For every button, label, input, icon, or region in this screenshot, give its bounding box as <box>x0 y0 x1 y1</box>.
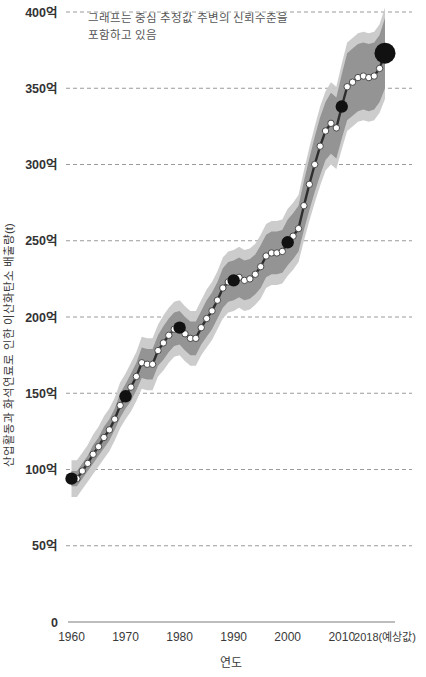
decade-marker <box>173 321 185 333</box>
y-tick-label: 350억 <box>25 82 58 96</box>
data-point <box>101 434 107 440</box>
x-tick-label: 1980 <box>166 630 193 644</box>
y-axis-tick-labels: 050억100억150억200억250억300억350억400억 <box>25 6 58 630</box>
data-point <box>203 315 209 321</box>
data-point <box>306 181 312 187</box>
x-tick-label: 1990 <box>220 630 247 644</box>
x-axis-tick-labels: 1960197019801990200020102018(예상값) <box>58 630 416 644</box>
data-point <box>90 451 96 457</box>
data-point <box>85 460 91 466</box>
y-tick-label: 50억 <box>32 539 58 553</box>
data-point <box>149 361 155 367</box>
data-point <box>160 340 166 346</box>
data-point <box>312 161 318 167</box>
decade-marker <box>375 43 396 64</box>
y-tick-label: 100억 <box>25 463 58 477</box>
y-axis-title: 산업활동과 화석연료로 인한 이산화탄소 배출량(t) <box>2 223 15 467</box>
decade-marker <box>282 236 294 248</box>
data-point <box>214 297 220 303</box>
data-point <box>220 285 226 291</box>
annotation-line-1: 그래프는 중심 추정값 주변의 신뢰수준을 <box>88 12 288 24</box>
data-point <box>193 335 199 341</box>
data-point <box>322 128 328 134</box>
decade-marker <box>336 100 348 112</box>
annotation-line-2: 포함하고 있음 <box>88 28 157 41</box>
data-point <box>209 308 215 314</box>
data-point <box>344 84 350 90</box>
data-point <box>371 73 377 79</box>
y-tick-label: 300억 <box>25 158 58 172</box>
data-point <box>112 416 118 422</box>
data-point <box>166 332 172 338</box>
confidence-band-outer <box>72 7 386 497</box>
data-point <box>328 120 334 126</box>
data-point <box>257 263 263 269</box>
data-point <box>155 347 161 353</box>
decade-marker <box>227 274 239 286</box>
y-tick-label: 200억 <box>25 311 58 325</box>
data-point <box>301 202 307 208</box>
confidence-band-outer-shape <box>72 7 386 497</box>
y-tick-label: 250억 <box>25 234 58 248</box>
x-tick-label: 2010 <box>328 630 355 644</box>
data-point <box>117 402 123 408</box>
data-point <box>279 248 285 254</box>
data-point <box>79 468 85 474</box>
data-point <box>128 384 134 390</box>
decade-marker <box>119 390 131 402</box>
x-axis-title: 연도 <box>220 656 242 670</box>
data-point <box>317 143 323 149</box>
decade-marker <box>65 472 77 484</box>
data-point <box>376 65 382 71</box>
y-tick-label: 150억 <box>25 387 58 401</box>
co2-emissions-chart: 050억100억150억200억250억300억350억400억 1960197… <box>0 0 426 677</box>
x-tick-label: 1970 <box>112 630 139 644</box>
data-point <box>247 276 253 282</box>
y-tick-label: 400억 <box>25 6 58 20</box>
data-point <box>252 271 258 277</box>
x-tick-label: 1960 <box>58 630 85 644</box>
data-point <box>349 79 355 85</box>
y-tick-label: 0 <box>51 616 58 630</box>
data-point <box>95 443 101 449</box>
chart-canvas: 050억100억150억200억250억300억350억400억 1960197… <box>0 0 426 677</box>
data-point <box>333 125 339 131</box>
data-point <box>133 373 139 379</box>
x-tick-label: 2018(예상값) <box>354 631 416 643</box>
data-point <box>106 427 112 433</box>
data-point <box>295 225 301 231</box>
data-point <box>198 324 204 330</box>
x-tick-label: 2000 <box>274 630 301 644</box>
